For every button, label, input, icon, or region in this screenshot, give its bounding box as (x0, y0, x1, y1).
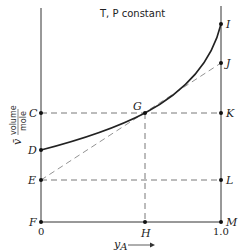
chart-title: T, P constant (99, 8, 165, 19)
label-i: I (225, 18, 231, 31)
x-axis-arrow-icon (150, 243, 155, 248)
svg-text:v̄: v̄ (11, 138, 24, 145)
y-axis-label: v̄ volume mole (9, 105, 28, 145)
x-tick-0: 0 (38, 226, 44, 237)
label-e: E (27, 174, 36, 187)
volume-curve (41, 24, 221, 150)
x-tick-1: 1.0 (213, 226, 229, 237)
label-h: H (140, 227, 151, 240)
label-l: L (225, 174, 233, 187)
partial-molar-volume-diagram: C D E F G H I J K L M 0 1.0 T, P constan… (0, 0, 246, 252)
label-g: G (133, 100, 142, 113)
svg-text:mole: mole (19, 111, 28, 131)
label-d: D (27, 144, 37, 157)
label-k: K (225, 107, 235, 120)
x-axis-label: yA (113, 238, 127, 252)
svg-text:volume: volume (9, 105, 18, 135)
label-f: F (28, 216, 37, 229)
tangent-line-e-j (41, 63, 221, 180)
point-markers (39, 22, 223, 224)
label-c: C (29, 107, 38, 120)
label-j: J (224, 57, 231, 70)
